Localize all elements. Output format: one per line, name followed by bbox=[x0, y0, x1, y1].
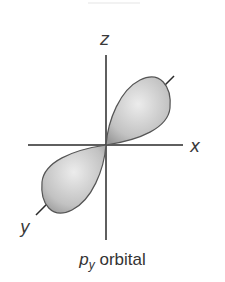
caption-p: p bbox=[79, 250, 88, 269]
x-axis-label: x bbox=[189, 136, 201, 156]
orbital-caption: py orbital bbox=[0, 250, 225, 272]
z-axis-label: z bbox=[99, 29, 110, 49]
orbital-lobe-positive bbox=[106, 77, 170, 145]
orbital-lobe-negative bbox=[42, 145, 106, 213]
y-axis-label: y bbox=[19, 217, 31, 237]
caption-text: orbital bbox=[95, 250, 146, 269]
p-orbital-diagram: z x y bbox=[0, 0, 225, 282]
